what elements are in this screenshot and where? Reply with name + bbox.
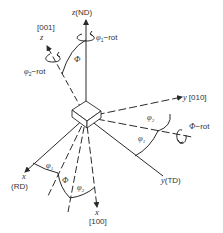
crystal-x-100-label: [100] bbox=[89, 217, 107, 226]
phi1-right-label: φ1 bbox=[138, 133, 145, 144]
euler-angle-diagram: z(ND) φ1−rot [001] z φ2−rot Φ y[010] Φ−r… bbox=[0, 0, 223, 233]
y-td-label: y(TD) bbox=[160, 175, 181, 185]
z-nd-label: z(ND) bbox=[71, 7, 93, 17]
crystal-z-dir-label: [001] bbox=[37, 23, 55, 32]
phi1-rot-label: φ1−rot bbox=[96, 32, 118, 43]
y-td-axis bbox=[86, 117, 163, 176]
intermediate-x-axes bbox=[47, 117, 86, 212]
crystal-z-var-label: z bbox=[39, 32, 44, 42]
x-var-label: x bbox=[21, 171, 26, 181]
crystal-x-var-label: x bbox=[94, 207, 99, 217]
crystal-x-100-axis bbox=[86, 117, 97, 207]
phi2-left-label: φ2 bbox=[77, 182, 85, 193]
phi1-left-label: φ1 bbox=[46, 160, 53, 171]
x-rd-label: (RD) bbox=[11, 182, 28, 191]
phi-rot-label: Φ−rot bbox=[189, 121, 210, 131]
phi-rotation-icon bbox=[177, 130, 186, 144]
crystal-cube-icon bbox=[72, 101, 101, 128]
crystal-y-010-label: y[010] bbox=[182, 92, 207, 102]
phi2-right-label: φ2 bbox=[147, 112, 155, 123]
phi-angle-top-label: Φ bbox=[74, 54, 81, 64]
phi2-rot-label: φ2−rot bbox=[24, 66, 46, 77]
phi-left-label: Φ bbox=[62, 175, 69, 185]
